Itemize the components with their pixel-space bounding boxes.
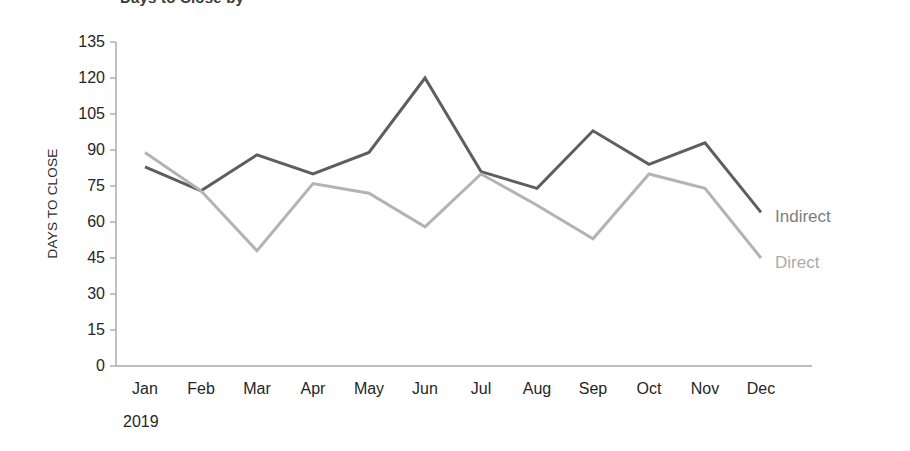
chart-container: Days to Close by DAYS TO CLOSE 135120105… bbox=[0, 0, 910, 451]
series-end-label-indirect: Indirect bbox=[775, 208, 831, 225]
x-axis-tick-label: Aug bbox=[523, 380, 551, 398]
x-axis-tick-label: Dec bbox=[747, 380, 775, 398]
x-axis-tick-label: Nov bbox=[691, 380, 719, 398]
x-axis-tick-label: Jun bbox=[412, 380, 438, 398]
x-axis-tick-label: Mar bbox=[243, 380, 271, 398]
x-axis-tick-label: Sep bbox=[579, 380, 607, 398]
x-axis-tick-label: Jul bbox=[471, 380, 491, 398]
x-axis-tick-label: Feb bbox=[187, 380, 215, 398]
x-axis-year-label: 2019 bbox=[123, 413, 159, 431]
series-line-indirect bbox=[145, 78, 761, 212]
x-axis-tick-label: Apr bbox=[301, 380, 326, 398]
series-end-label-direct: Direct bbox=[775, 254, 819, 271]
x-axis-tick-label: May bbox=[354, 380, 384, 398]
x-axis-tick-label: Oct bbox=[637, 380, 662, 398]
x-axis-tick-label: Jan bbox=[132, 380, 158, 398]
